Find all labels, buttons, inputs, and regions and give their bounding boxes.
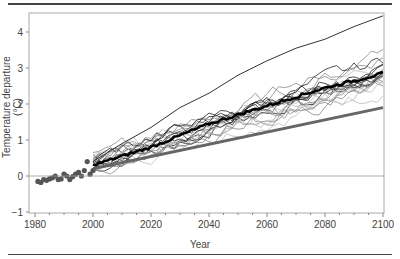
temperature-chart: −1012341980200020202040206020802100 bbox=[0, 0, 400, 259]
observation-dot bbox=[59, 176, 64, 181]
y-tick-label: 0 bbox=[17, 171, 23, 182]
y-tick-label: 4 bbox=[17, 27, 23, 38]
y-tick-label: −1 bbox=[12, 207, 24, 218]
observation-dot bbox=[90, 168, 95, 173]
x-tick-label: 1980 bbox=[24, 219, 47, 230]
x-tick-label: 2000 bbox=[82, 219, 105, 230]
observation-dot bbox=[85, 159, 90, 164]
axes: −1012341980200020202040206020802100 bbox=[12, 13, 395, 230]
x-tick-label: 2100 bbox=[372, 219, 395, 230]
x-tick-label: 2080 bbox=[314, 219, 337, 230]
x-tick-label: 2020 bbox=[140, 219, 163, 230]
x-axis-label: Year bbox=[0, 239, 400, 250]
plot-frame bbox=[29, 13, 384, 213]
x-tick-label: 2060 bbox=[256, 219, 279, 230]
y-axis-label: Temperature departure (°C) bbox=[1, 47, 23, 167]
x-tick-label: 2040 bbox=[198, 219, 221, 230]
observation-dot bbox=[82, 168, 87, 173]
ensemble-lines bbox=[93, 50, 383, 175]
observation-dots bbox=[35, 159, 95, 185]
